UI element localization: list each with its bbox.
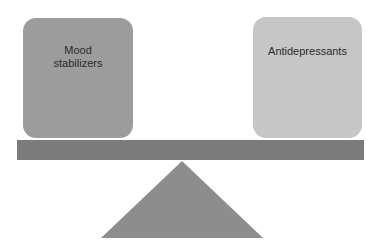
antidepressants-box: Antidepressants [253,17,362,138]
mood-stabilizers-label: Mood stabilizers [43,44,113,70]
balance-beam [17,140,364,160]
mood-stabilizers-box: Mood stabilizers [23,18,133,138]
fulcrum-triangle-icon [101,161,263,238]
antidepressants-label: Antidepressants [268,45,347,57]
